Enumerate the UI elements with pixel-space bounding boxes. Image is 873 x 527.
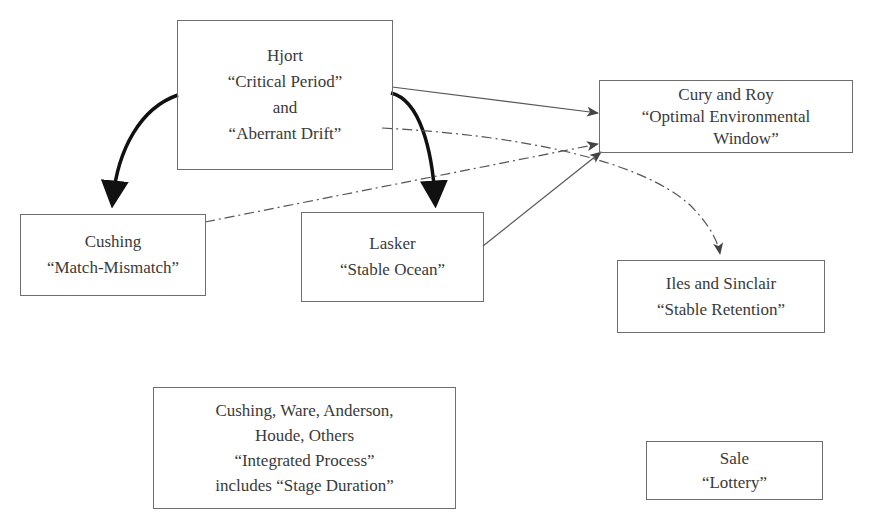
arrow-lasker-to-cury-roy — [483, 152, 601, 246]
node-cury-roy-line-3: Window” — [673, 128, 778, 150]
node-cushing: Cushing “Match-Mismatch” — [20, 214, 206, 296]
node-lasker-line-2: “Stable Ocean” — [340, 257, 445, 283]
node-lasker-line-1: Lasker — [369, 231, 415, 257]
node-integrated-line-3: “Integrated Process” — [234, 448, 374, 473]
arrow-hjort-to-cushing — [113, 95, 178, 198]
node-cushing-line-2: “Match-Mismatch” — [47, 255, 179, 281]
node-cury-roy-line-2: “Optimal Environmental — [642, 106, 811, 128]
node-lasker: Lasker “Stable Ocean” — [301, 212, 484, 302]
node-hjort-line-1: Hjort — [267, 43, 303, 69]
node-iles-sinclair-line-2: “Stable Retention” — [657, 297, 785, 323]
arrow-hjort-to-lasker — [391, 93, 435, 198]
node-sale-line-1: Sale — [720, 447, 749, 471]
arrow-hjort-to-cury-roy — [392, 87, 598, 113]
node-hjort-line-4: “Aberrant Drift” — [229, 121, 342, 147]
diagram-canvas: Hjort “Critical Period” and “Aberrant Dr… — [0, 0, 873, 527]
node-hjort-line-2: “Critical Period” — [228, 69, 343, 95]
node-hjort: Hjort “Critical Period” and “Aberrant Dr… — [177, 20, 393, 170]
node-sale: Sale “Lottery” — [646, 441, 823, 500]
node-cury-roy: Cury and Roy “Optimal Environmental Wind… — [599, 80, 853, 153]
node-integrated-process: Cushing, Ware, Anderson, Houde, Others “… — [153, 387, 456, 509]
node-cury-roy-line-1: Cury and Roy — [678, 84, 773, 106]
node-integrated-line-4: includes “Stage Duration” — [215, 473, 393, 498]
node-iles-sinclair-line-1: Iles and Sinclair — [666, 271, 776, 297]
node-integrated-line-1: Cushing, Ware, Anderson, — [215, 398, 393, 423]
node-sale-line-2: “Lottery” — [702, 471, 767, 495]
node-cushing-line-1: Cushing — [85, 229, 142, 255]
node-integrated-line-2: Houde, Others — [255, 423, 354, 448]
node-iles-sinclair: Iles and Sinclair “Stable Retention” — [617, 260, 825, 333]
node-hjort-line-3: and — [273, 95, 298, 121]
